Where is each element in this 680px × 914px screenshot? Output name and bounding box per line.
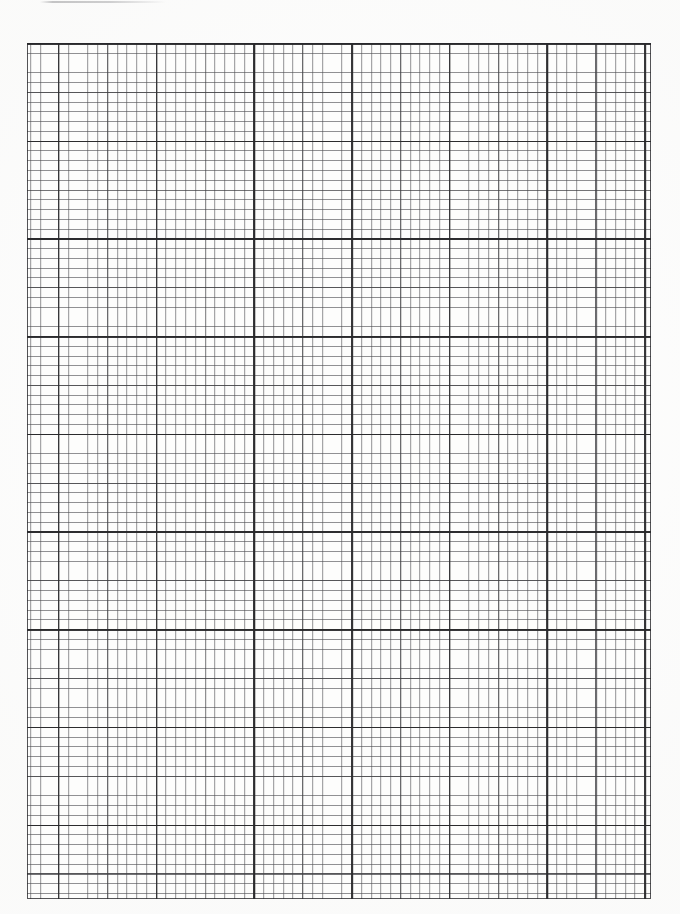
bottom-margin-label [0, 0, 1, 1]
grid-caption [0, 0, 1, 1]
top-margin-label [0, 0, 1, 1]
document-title: Scanned engineering graph paper sheet [0, 0, 1, 1]
scanner-streak-artifact [40, 1, 166, 3]
graph-paper-grid [27, 43, 651, 899]
graph-paper-page: Scanned engineering graph paper sheet [0, 0, 680, 914]
